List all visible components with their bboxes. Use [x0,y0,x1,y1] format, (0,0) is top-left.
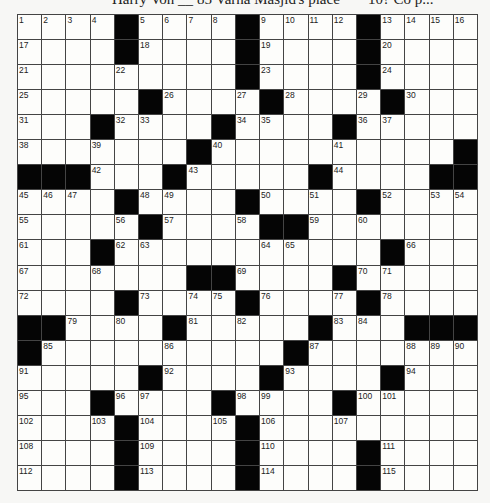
grid-cell[interactable] [66,40,89,64]
grid-cell[interactable] [115,90,138,114]
grid-cell[interactable]: 18 [139,40,162,64]
grid-cell[interactable] [309,266,332,290]
grid-cell[interactable] [381,140,404,164]
grid-cell[interactable] [430,441,453,465]
grid-cell[interactable] [187,466,210,490]
grid-cell[interactable]: 78 [381,291,404,315]
grid-cell[interactable] [333,341,356,365]
grid-cell[interactable] [309,40,332,64]
grid-cell[interactable] [163,140,186,164]
grid-cell[interactable]: 54 [454,190,477,214]
grid-cell[interactable]: 64 [260,240,283,264]
grid-cell[interactable]: 16 [454,15,477,39]
grid-cell[interactable] [42,140,65,164]
grid-cell[interactable] [212,165,235,189]
grid-cell[interactable]: 5 [139,15,162,39]
grid-cell[interactable] [212,240,235,264]
grid-cell[interactable]: 106 [260,416,283,440]
grid-cell[interactable]: 101 [381,391,404,415]
grid-cell[interactable]: 21 [18,65,41,89]
grid-cell[interactable]: 24 [381,65,404,89]
grid-cell[interactable]: 32 [115,115,138,139]
grid-cell[interactable] [66,366,89,390]
grid-cell[interactable]: 47 [66,190,89,214]
grid-cell[interactable]: 50 [260,190,283,214]
grid-cell[interactable]: 58 [236,215,259,239]
grid-cell[interactable]: 89 [430,341,453,365]
grid-cell[interactable] [430,215,453,239]
grid-cell[interactable] [357,240,380,264]
grid-cell[interactable] [115,266,138,290]
grid-cell[interactable] [405,215,428,239]
grid-cell[interactable] [454,466,477,490]
grid-cell[interactable] [333,466,356,490]
grid-cell[interactable]: 62 [115,240,138,264]
grid-cell[interactable]: 48 [139,190,162,214]
grid-cell[interactable]: 49 [163,190,186,214]
grid-cell[interactable] [115,341,138,365]
grid-cell[interactable] [212,65,235,89]
grid-cell[interactable] [91,341,114,365]
grid-cell[interactable] [284,165,307,189]
grid-cell[interactable]: 37 [381,115,404,139]
grid-cell[interactable] [115,366,138,390]
grid-cell[interactable]: 72 [18,291,41,315]
grid-cell[interactable] [66,391,89,415]
grid-cell[interactable] [212,316,235,340]
grid-cell[interactable] [309,466,332,490]
grid-cell[interactable]: 42 [91,165,114,189]
grid-cell[interactable] [405,40,428,64]
grid-cell[interactable] [212,441,235,465]
grid-cell[interactable]: 57 [163,215,186,239]
grid-cell[interactable] [357,416,380,440]
grid-cell[interactable] [381,165,404,189]
grid-cell[interactable] [187,240,210,264]
grid-cell[interactable] [212,366,235,390]
grid-cell[interactable] [405,441,428,465]
grid-cell[interactable] [284,466,307,490]
grid-cell[interactable]: 7 [187,15,210,39]
grid-cell[interactable] [454,65,477,89]
grid-cell[interactable]: 107 [333,416,356,440]
grid-cell[interactable] [284,140,307,164]
grid-cell[interactable]: 98 [236,391,259,415]
grid-cell[interactable]: 38 [18,140,41,164]
grid-cell[interactable] [91,65,114,89]
grid-cell[interactable] [454,40,477,64]
grid-cell[interactable] [42,366,65,390]
grid-cell[interactable]: 112 [18,466,41,490]
grid-cell[interactable] [66,240,89,264]
grid-cell[interactable] [91,215,114,239]
grid-cell[interactable]: 110 [260,441,283,465]
grid-cell[interactable] [212,466,235,490]
grid-cell[interactable] [91,466,114,490]
grid-cell[interactable]: 29 [357,90,380,114]
grid-cell[interactable]: 12 [333,15,356,39]
grid-cell[interactable]: 76 [260,291,283,315]
grid-cell[interactable] [333,366,356,390]
grid-cell[interactable] [333,240,356,264]
grid-cell[interactable] [42,416,65,440]
grid-cell[interactable] [212,215,235,239]
grid-cell[interactable] [66,291,89,315]
grid-cell[interactable]: 115 [381,466,404,490]
grid-cell[interactable]: 55 [18,215,41,239]
grid-cell[interactable] [212,40,235,64]
grid-cell[interactable] [381,341,404,365]
grid-cell[interactable] [42,391,65,415]
grid-cell[interactable] [163,40,186,64]
grid-cell[interactable] [284,190,307,214]
grid-cell[interactable] [430,416,453,440]
grid-cell[interactable] [163,240,186,264]
grid-cell[interactable] [381,316,404,340]
grid-cell[interactable]: 91 [18,366,41,390]
grid-cell[interactable]: 31 [18,115,41,139]
grid-cell[interactable] [236,366,259,390]
grid-cell[interactable] [309,140,332,164]
grid-cell[interactable] [139,140,162,164]
grid-cell[interactable] [454,291,477,315]
grid-cell[interactable] [454,115,477,139]
grid-cell[interactable]: 95 [18,391,41,415]
grid-cell[interactable] [66,416,89,440]
grid-cell[interactable] [284,65,307,89]
